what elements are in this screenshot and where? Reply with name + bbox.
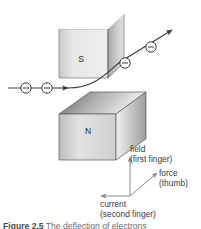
electron-particle bbox=[146, 42, 156, 52]
field-axis-label-line1: field bbox=[130, 144, 146, 154]
figure-caption-body: The deflection of electrons bbox=[44, 221, 147, 229]
south-pole-label: S bbox=[78, 54, 84, 64]
north-pole-label: N bbox=[85, 126, 91, 136]
electron-particle bbox=[42, 83, 52, 93]
electron-particle bbox=[21, 83, 31, 93]
force-axis-arrow bbox=[130, 173, 157, 196]
south-magnet: S bbox=[59, 14, 124, 78]
electron-particle bbox=[120, 58, 130, 68]
force-axis-label-line1: force bbox=[159, 168, 178, 178]
field-axis-label: field (first finger) bbox=[130, 144, 173, 164]
north-magnet-front-face bbox=[59, 114, 116, 160]
current-axis-label: current (second finger) bbox=[100, 199, 156, 219]
current-axis-label-line2: (second finger) bbox=[100, 209, 156, 219]
figure-container: S N bbox=[0, 0, 201, 229]
force-axis-label: force (thumb) bbox=[159, 168, 188, 188]
magnet-electron-deflection-diagram: S N bbox=[0, 0, 201, 229]
figure-caption: Figure 2.5 The deflection of electrons bbox=[3, 221, 201, 229]
current-axis-label-line1: current bbox=[100, 199, 127, 209]
figure-caption-number: Figure 2.5 bbox=[3, 221, 44, 229]
field-axis-label-line2: (first finger) bbox=[130, 154, 173, 164]
force-axis-label-line2: (thumb) bbox=[159, 178, 188, 188]
